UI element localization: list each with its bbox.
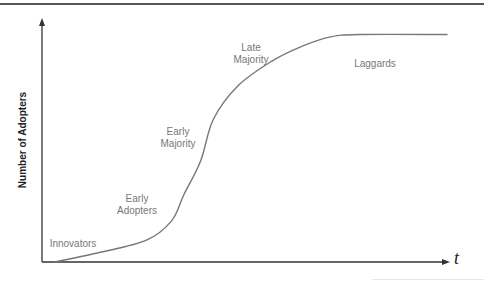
label-early-majority: Early Majority <box>160 126 195 150</box>
label-late-majority: Late Majority <box>233 42 268 66</box>
y-axis-label: Number of Adopters <box>17 92 28 188</box>
label-early-adopters: Early Adopters <box>117 193 157 217</box>
label-laggards: Laggards <box>354 58 396 70</box>
bottom-rule <box>372 279 484 280</box>
label-innovators: Innovators <box>50 238 97 250</box>
x-axis-label: t <box>454 248 459 269</box>
